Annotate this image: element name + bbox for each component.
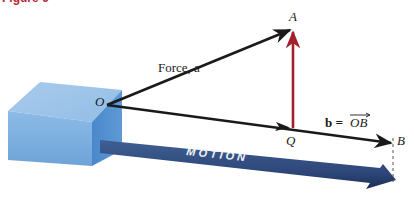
- vector-projection-diagram: MOTION Force, a A O Q B b = OB: [0, 0, 414, 198]
- point-o-label: O: [95, 94, 105, 109]
- vector-b-ob: [107, 105, 391, 143]
- point-b-label: B: [397, 133, 405, 148]
- b-equals-ob-label: b = OB: [325, 113, 370, 130]
- ob-text: OB: [350, 115, 367, 130]
- point-a-label: A: [288, 9, 297, 24]
- point-q-label: Q: [286, 133, 296, 148]
- force-label: Force, a: [158, 60, 200, 75]
- motion-arrow: MOTION: [100, 140, 396, 189]
- b-equals-text: b =: [325, 115, 343, 130]
